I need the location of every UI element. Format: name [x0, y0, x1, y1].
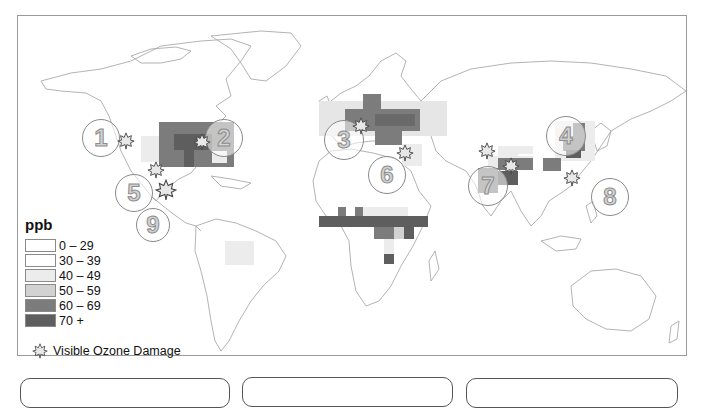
bottom-box-1: [20, 378, 230, 408]
ozone-cell: [375, 114, 415, 126]
maple-leaf-icon: [502, 157, 520, 175]
legend-swatch: [25, 284, 56, 297]
maple-leaf-icon: [117, 132, 135, 150]
bottom-box-3: [466, 378, 678, 408]
maple-leaf-icon: [352, 117, 370, 135]
ozone-cell: [404, 227, 414, 239]
maple-leaf-icon: [563, 169, 581, 187]
legend-item: 40 – 49: [25, 268, 101, 283]
maple-leaf-icon: [32, 343, 48, 359]
damage-legend: Visible Ozone Damage: [32, 343, 181, 359]
ozone-cell: [384, 254, 394, 264]
ozone-cell: [184, 150, 194, 167]
ozone-cell: [363, 94, 381, 109]
legend: ppb 0 – 29 30 – 39 40 – 49 50 – 59 60 – …: [25, 216, 101, 328]
region-circle-8: 8: [591, 178, 629, 216]
legend-swatch: [25, 269, 56, 282]
damage-label: Visible Ozone Damage: [53, 344, 181, 358]
legend-swatch: [25, 299, 56, 312]
legend-swatch: [25, 239, 56, 252]
ozone-cell: [384, 239, 394, 254]
ozone-cell: [543, 158, 561, 171]
bottom-box-2: [242, 377, 453, 407]
legend-item: 60 – 69: [25, 298, 101, 313]
region-circle-5: 5: [115, 174, 153, 212]
maple-leaf-icon: [478, 142, 496, 160]
ozone-cell: [374, 227, 394, 239]
ozone-cell: [319, 216, 428, 227]
legend-swatch: [25, 254, 56, 267]
maple-leaf-icon: [147, 161, 165, 179]
legend-item: 70 +: [25, 313, 101, 328]
legend-swatch: [25, 314, 56, 327]
map-frame: 1 2 3 4 5 6 7 8 9: [17, 15, 687, 356]
legend-item: 50 – 59: [25, 283, 101, 298]
legend-title: ppb: [25, 216, 101, 233]
ozone-cell: [141, 136, 161, 162]
maple-leaf-icon: [396, 144, 414, 162]
region-circle-1: 1: [82, 119, 120, 157]
region-circle-4: 4: [546, 116, 586, 156]
legend-item: 0 – 29: [25, 238, 101, 253]
legend-item: 30 – 39: [25, 253, 101, 268]
maple-leaf-icon: [193, 133, 211, 151]
ozone-cell: [225, 241, 254, 265]
region-circle-9: 9: [136, 208, 170, 242]
ozone-cell: [513, 146, 533, 154]
maple-leaf-icon: [155, 179, 177, 201]
ozone-cell: [394, 227, 404, 239]
ozone-cell: [375, 131, 402, 145]
